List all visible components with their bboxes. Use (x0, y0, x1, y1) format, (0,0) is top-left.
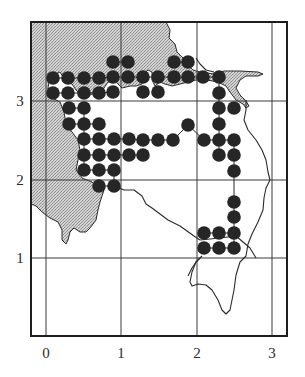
occurrence-dot (136, 148, 150, 162)
occurrence-dot (92, 71, 106, 85)
coastline-2 (188, 256, 202, 276)
occurrence-dot (121, 55, 135, 69)
occurrence-dot (136, 70, 150, 84)
occurrence-dot (212, 86, 226, 100)
y-tick-label: 2 (16, 172, 24, 188)
occurrence-dot (166, 133, 180, 147)
coastline-0 (196, 58, 214, 72)
occurrence-dot (92, 148, 106, 162)
occurrence-dot (61, 71, 75, 85)
occurrence-dot (212, 148, 226, 162)
occurrence-dot (227, 148, 241, 162)
occurrence-dot (212, 117, 226, 131)
occurrence-dot (167, 55, 181, 69)
occurrence-dot (136, 85, 150, 99)
occurrence-dot (227, 210, 241, 224)
occurrence-dot (227, 101, 241, 115)
occurrence-dot (227, 133, 241, 147)
occurrence-dot (181, 118, 195, 132)
occurrence-dot (77, 71, 91, 85)
occurrence-dot (181, 70, 195, 84)
y-tick-label: 3 (16, 93, 24, 109)
occurrence-dot (121, 70, 135, 84)
occurrence-dot (62, 117, 76, 131)
occurrence-dot (151, 133, 165, 147)
occurrence-dot (77, 163, 91, 177)
occurrence-dot (151, 70, 165, 84)
occurrence-dot (181, 55, 195, 69)
x-tick-label: 1 (117, 345, 125, 361)
occurrence-dot (212, 70, 226, 84)
occurrence-dot (212, 226, 226, 240)
occurrence-dot (197, 133, 211, 147)
y-axis-labels: 321 (16, 93, 24, 266)
occurrence-dot (212, 133, 226, 147)
x-tick-label: 3 (268, 345, 276, 361)
occurrence-dot (46, 71, 60, 85)
coastline-3 (114, 186, 200, 240)
occurrence-dot (92, 86, 106, 100)
occurrence-dot (151, 85, 165, 99)
x-tick-label: 2 (193, 345, 201, 361)
occurrence-dot (167, 70, 181, 84)
occurrence-dot (62, 101, 76, 115)
occurrence-dot (227, 164, 241, 178)
occurrence-dot (227, 226, 241, 240)
occurrence-dot (197, 226, 211, 240)
x-tick-label: 0 (42, 345, 50, 361)
occurrence-dot (196, 70, 210, 84)
occurrence-dot (227, 241, 241, 255)
occurrence-dot (122, 148, 136, 162)
occurrence-dot (77, 86, 91, 100)
occurrence-dot (212, 101, 226, 115)
occurrence-dot (212, 241, 226, 255)
occurrence-dot (107, 132, 121, 146)
occurrence-dot (107, 148, 121, 162)
occurrence-dot (92, 117, 106, 131)
occurrence-dot (106, 85, 120, 99)
shaded-land-area (31, 22, 263, 244)
occurrence-dot (106, 55, 120, 69)
occurrence-dot (106, 70, 120, 84)
occurrence-dot (46, 86, 60, 100)
occurrence-dot (77, 148, 91, 162)
occurrence-dot (77, 101, 91, 115)
occurrence-dot (77, 117, 91, 131)
occurrence-dot (61, 86, 75, 100)
occurrence-dot (92, 179, 106, 193)
occurrence-dot (92, 163, 106, 177)
occurrence-dot (77, 132, 91, 146)
occurrence-dot (197, 241, 211, 255)
coastline-paths (114, 58, 270, 314)
occurrence-dot (107, 163, 121, 177)
occurrence-dot (107, 179, 121, 193)
occurrence-dot (227, 195, 241, 209)
occurrence-dot (122, 132, 136, 146)
occurrence-dot (136, 133, 150, 147)
x-axis-labels: 0123 (42, 345, 276, 361)
occurrence-dot (92, 132, 106, 146)
grid-map: 0123 321 (0, 0, 305, 377)
y-tick-label: 1 (16, 250, 24, 266)
